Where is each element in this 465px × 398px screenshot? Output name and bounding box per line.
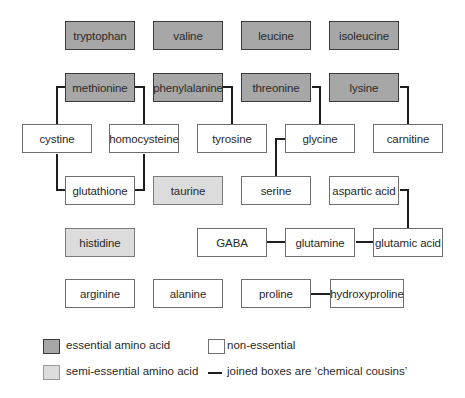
- connector-threonine-glycine: [312, 87, 320, 124]
- box-taurine: taurine: [153, 176, 223, 205]
- box-threonine: threonine: [241, 73, 311, 102]
- legend-label-essential: essential amino acid: [66, 339, 170, 351]
- legend-swatch-semi-essential: [43, 365, 60, 380]
- box-glutamine: glutamine: [285, 228, 355, 257]
- box-carnitine: carnitine: [373, 124, 443, 153]
- box-homocysteine: homocysteine: [109, 124, 179, 153]
- box-serine: serine: [241, 176, 311, 205]
- box-leucine: leucine: [241, 21, 311, 50]
- connector-phenylalanine-tyrosine: [223, 87, 232, 124]
- connector-methionine-homocysteine: [135, 87, 144, 124]
- box-histidine: histidine: [65, 228, 135, 257]
- box-glutamic-acid: glutamic acid: [373, 228, 443, 257]
- legend-label-semi-essential: semi-essential amino acid: [66, 365, 198, 377]
- box-gaba: GABA: [197, 228, 267, 257]
- connector-lysine-carnitine: [400, 87, 408, 124]
- legend-swatch-non-essential: [208, 339, 225, 354]
- box-arginine: arginine: [65, 279, 135, 308]
- connector-homocysteine-glutathione: [135, 154, 144, 190]
- box-phenylalanine: phenylalanine: [153, 73, 223, 102]
- box-lysine: lysine: [329, 73, 399, 102]
- box-hydroxyproline: hydroxyproline: [330, 279, 404, 308]
- box-methionine: methionine: [65, 73, 135, 102]
- connector-glycine-serine: [276, 139, 285, 176]
- legend-swatch-connector: [208, 372, 222, 374]
- box-valine: valine: [153, 21, 223, 50]
- connector-aspartic-glutamic: [400, 190, 408, 228]
- box-glutathione: glutathione: [65, 176, 135, 205]
- box-glycine: glycine: [285, 124, 355, 153]
- legend-label-non-essential: non-essential: [227, 339, 295, 351]
- box-alanine: alanine: [153, 279, 223, 308]
- connector-cystine-glutathione: [57, 154, 65, 190]
- box-proline: proline: [241, 279, 311, 308]
- connector-methionine-cystine: [57, 87, 65, 124]
- legend-label-connector: joined boxes are ‘chemical cousins’: [227, 365, 407, 377]
- box-aspartic-acid: aspartic acid: [329, 176, 399, 205]
- box-tryptophan: tryptophan: [65, 21, 135, 50]
- box-tyrosine: tyrosine: [197, 124, 267, 153]
- legend-swatch-essential: [43, 339, 60, 354]
- box-cystine: cystine: [22, 124, 92, 153]
- box-isoleucine: isoleucine: [329, 21, 399, 50]
